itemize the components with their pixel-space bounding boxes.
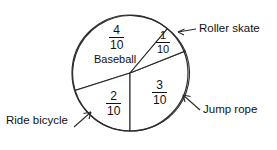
fraction-denominator: 10 [152,93,167,106]
fraction-denominator: 10 [106,104,121,117]
ride-bicycle-arrow-line [74,112,91,127]
slice-fraction-roller-skate: 1 10 [156,30,170,55]
jump-rope-arrow-line [183,95,200,110]
fraction-denominator: 10 [156,43,170,55]
callout-label-ride-bicycle: Ride bicycle [6,114,68,126]
fraction-numerator: 3 [155,79,164,92]
fraction-numerator: 1 [159,30,167,42]
callout-label-roller-skate: Roller skate [199,22,260,34]
pie-chart-figure: 4 10 Baseball 1 10 3 10 2 10 Roller skat… [0,0,277,150]
slice-fraction-baseball: 4 10 [109,24,124,51]
fraction-numerator: 2 [109,90,118,103]
slice-fraction-jump-rope: 3 10 [152,79,167,106]
fraction-denominator: 10 [109,38,124,51]
callout-label-jump-rope: Jump rope [203,103,257,115]
fraction-numerator: 4 [112,24,121,37]
roller-skate-arrow-head [178,29,185,35]
slice-label-baseball: Baseball [94,53,136,65]
slice-fraction-ride-bicycle: 2 10 [106,90,121,117]
